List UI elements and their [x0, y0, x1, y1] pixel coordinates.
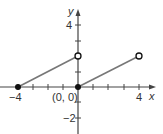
piecewise-graph: y x 4 −2 −4 4 (0, 0)	[0, 0, 163, 134]
y-axis-label: y	[67, 5, 75, 17]
origin-label: (0, 0)	[52, 91, 78, 103]
segment-1	[18, 56, 78, 87]
y-axis-arrow-icon	[76, 9, 81, 16]
closed-point-neg4-0	[15, 84, 21, 90]
segment-2	[78, 56, 139, 87]
open-point-4-2	[136, 53, 142, 59]
open-point-0-2	[75, 53, 81, 59]
y-tick-4: 4	[66, 19, 72, 31]
closed-point-0-0	[75, 84, 81, 90]
x-axis-arrow-icon	[149, 85, 156, 90]
y-tick-neg2: −2	[63, 112, 76, 124]
x-tick-4: 4	[136, 91, 142, 103]
x-axis-label: x	[148, 90, 155, 102]
x-tick-neg4: −4	[9, 91, 22, 103]
